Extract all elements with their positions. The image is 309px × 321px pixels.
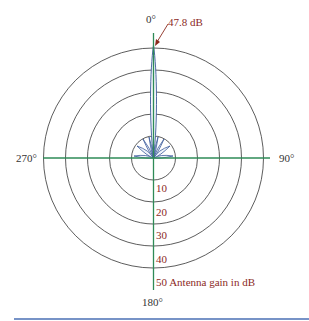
ring-label-30: 30 [156,229,167,241]
angle-label-180: 180° [142,296,163,308]
ring-label-40: 40 [156,253,167,265]
ring-label-10: 10 [156,182,167,194]
ring-label-50: 50 Antenna gain in dB [156,276,255,288]
angle-label-90: 90° [279,152,294,164]
angle-label-270: 270° [16,152,37,164]
angle-label-0: 0° [146,13,156,25]
peak-arrow [155,24,168,46]
polar-diagram [0,0,309,321]
axes [43,33,270,290]
ring-label-20: 20 [156,206,167,218]
peak-annotation: 47.8 dB [168,16,203,28]
